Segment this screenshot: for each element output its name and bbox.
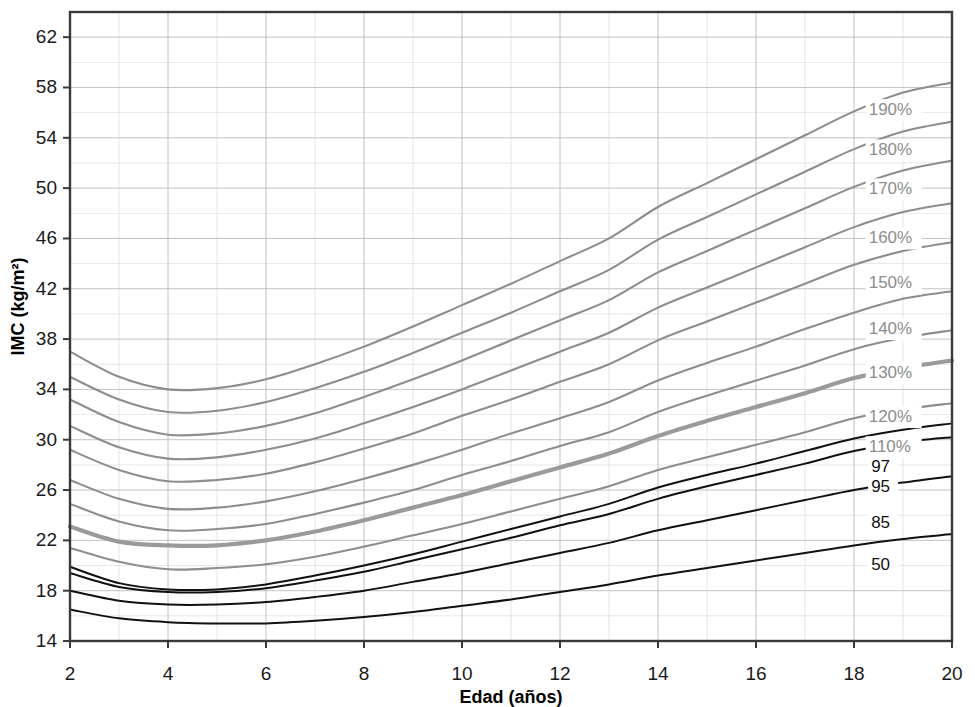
x-tick-label: 14 (647, 663, 669, 684)
curve-label-95: 95 (871, 477, 890, 496)
y-tick-label: 30 (36, 429, 57, 450)
y-tick-label: 46 (36, 227, 57, 248)
y-tick-label: 50 (36, 177, 57, 198)
curve-label-97: 97 (871, 457, 890, 476)
chart-canvas: 190%180%170%160%150%140%130%120%110%9795… (0, 0, 975, 707)
x-tick-label: 20 (941, 663, 962, 684)
x-tick-label: 8 (359, 663, 370, 684)
curve-label-110pct: 110% (869, 437, 911, 456)
curve-label-120pct: 120% (869, 407, 912, 426)
y-tick-label: 58 (36, 76, 57, 97)
y-tick-label: 14 (36, 630, 58, 651)
y-tick-label: 22 (36, 529, 57, 550)
x-tick-label: 6 (261, 663, 272, 684)
y-tick-label: 38 (36, 328, 57, 349)
y-tick-label: 34 (36, 378, 58, 399)
x-tick-label: 16 (745, 663, 766, 684)
y-tick-label: 62 (36, 26, 57, 47)
curve-label-85: 85 (871, 513, 890, 532)
curve-label-140pct: 140% (869, 319, 912, 338)
curve-label-190pct: 190% (869, 100, 912, 119)
bmi-growth-chart: 190%180%170%160%150%140%130%120%110%9795… (0, 0, 975, 707)
curve-label-50: 50 (871, 555, 890, 574)
x-tick-label: 10 (451, 663, 472, 684)
curve-label-180pct: 180% (869, 140, 912, 159)
y-tick-label: 42 (36, 278, 57, 299)
x-tick-label: 18 (843, 663, 864, 684)
x-tick-label: 2 (65, 663, 76, 684)
curve-label-130pct: 130% (869, 363, 912, 382)
curve-label-170pct: 170% (869, 179, 912, 198)
x-tick-label: 4 (163, 663, 174, 684)
curve-label-150pct: 150% (869, 273, 912, 292)
y-tick-label: 26 (36, 479, 57, 500)
x-tick-label: 12 (549, 663, 570, 684)
y-axis-title: IMC (kg/m²) (8, 258, 28, 356)
y-tick-label: 18 (36, 580, 57, 601)
curve-label-160pct: 160% (869, 228, 912, 247)
y-tick-label: 54 (36, 127, 58, 148)
x-axis-title: Edad (años) (459, 687, 562, 707)
